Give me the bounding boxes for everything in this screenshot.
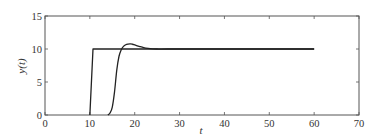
x-tick-label: 20 xyxy=(129,118,140,129)
x-tick-label: 30 xyxy=(174,118,185,129)
y-axis-label: y(t) xyxy=(15,58,28,75)
y-tick-label: 15 xyxy=(32,11,43,22)
response-line xyxy=(108,44,314,115)
step-response-chart: 010203040506070051015 t y(t) xyxy=(0,0,379,140)
y-tick-label: 0 xyxy=(37,110,42,121)
x-tick-label: 70 xyxy=(354,118,365,129)
step-reference-line xyxy=(90,49,314,115)
y-tick-label: 10 xyxy=(32,44,43,55)
x-tick-label: 40 xyxy=(219,118,230,129)
x-tick-label: 60 xyxy=(309,118,320,129)
y-tick-label: 5 xyxy=(37,77,42,88)
x-tick-label: 10 xyxy=(85,118,96,129)
series-layer xyxy=(90,44,314,115)
axis-tick-labels: 010203040506070051015 xyxy=(32,11,365,129)
x-axis-label: t xyxy=(199,124,203,136)
x-tick-label: 50 xyxy=(264,118,275,129)
x-tick-label: 0 xyxy=(42,118,47,129)
